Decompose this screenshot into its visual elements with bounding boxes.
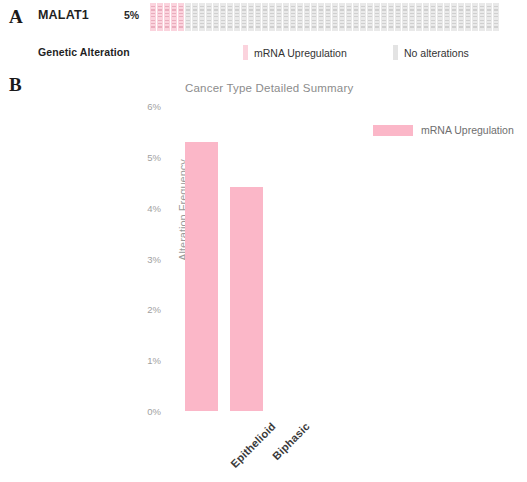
bars-layer <box>170 106 385 411</box>
oncoprint-tile-no-alteration[interactable] <box>395 3 401 31</box>
chart-title: Cancer Type Detailed Summary <box>185 82 353 94</box>
oncoprint-tile-no-alteration[interactable] <box>332 3 338 31</box>
oncoprint-tile-altered[interactable] <box>171 3 177 31</box>
oncoprint-tile-no-alteration[interactable] <box>290 3 296 31</box>
oncoprint-tile-no-alteration[interactable] <box>388 3 394 31</box>
oncoprint-tile-no-alteration[interactable] <box>199 3 205 31</box>
oncoprint-legend: Genetic Alteration mRNA Upregulation No … <box>0 44 527 64</box>
oncoprint-tile-no-alteration[interactable] <box>269 3 275 31</box>
oncoprint-tile-no-alteration[interactable] <box>220 3 226 31</box>
legend-item-label: No alterations <box>404 47 469 59</box>
oncoprint-tile-no-alteration[interactable] <box>416 3 422 31</box>
gene-alteration-percent: 5% <box>124 9 139 21</box>
cancer-type-summary-panel: B Cancer Type Detailed Summary mRNA Upre… <box>0 72 527 482</box>
oncoprint-tile-no-alteration[interactable] <box>367 3 373 31</box>
oncoprint-tile-no-alteration[interactable] <box>283 3 289 31</box>
gene-name-label: MALAT1 <box>38 8 89 22</box>
oncoprint-tile-no-alteration[interactable] <box>458 3 464 31</box>
oncoprint-tile-no-alteration[interactable] <box>465 3 471 31</box>
oncoprint-tile-no-alteration[interactable] <box>346 3 352 31</box>
chart-legend-label: mRNA Upregulation <box>421 124 514 136</box>
oncoprint-tile-no-alteration[interactable] <box>255 3 261 31</box>
oncoprint-sample-strip[interactable] <box>150 3 500 31</box>
y-axis-tick-label: 0% <box>147 406 161 417</box>
oncoprint-tile-no-alteration[interactable] <box>276 3 282 31</box>
oncoprint-tile-no-alteration[interactable] <box>304 3 310 31</box>
oncoprint-tile-no-alteration[interactable] <box>311 3 317 31</box>
oncoprint-tile-no-alteration[interactable] <box>192 3 198 31</box>
oncoprint-tile-altered[interactable] <box>150 3 156 31</box>
oncoprint-tile-no-alteration[interactable] <box>185 3 191 31</box>
no-alterations-swatch-icon <box>393 45 398 60</box>
oncoprint-tile-no-alteration[interactable] <box>213 3 219 31</box>
legend-item-mrna-upregulation: mRNA Upregulation <box>243 45 347 60</box>
oncoprint-tile-no-alteration[interactable] <box>493 3 499 31</box>
oncoprint-tile-no-alteration[interactable] <box>339 3 345 31</box>
legend-item-no-alterations: No alterations <box>393 45 469 60</box>
oncoprint-tile-no-alteration[interactable] <box>206 3 212 31</box>
y-axis-tick-label: 6% <box>147 101 161 112</box>
genetic-alteration-label: Genetic Alteration <box>38 46 130 58</box>
oncoprint-tile-altered[interactable] <box>178 3 184 31</box>
oncoprint-tile-no-alteration[interactable] <box>444 3 450 31</box>
oncoprint-panel: A MALAT1 5% Genetic Alteration mRNA Upre… <box>0 0 527 72</box>
x-axis-tick-label: Epithelioid <box>228 420 278 470</box>
panel-a-label: A <box>9 6 23 28</box>
oncoprint-tile-no-alteration[interactable] <box>360 3 366 31</box>
oncoprint-tile-no-alteration[interactable] <box>437 3 443 31</box>
oncoprint-tile-no-alteration[interactable] <box>325 3 331 31</box>
oncoprint-tile-no-alteration[interactable] <box>486 3 492 31</box>
chart-legend: mRNA Upregulation <box>373 124 514 136</box>
y-axis-tick-label: 4% <box>147 202 161 213</box>
oncoprint-tile-no-alteration[interactable] <box>423 3 429 31</box>
oncoprint-tile-no-alteration[interactable] <box>318 3 324 31</box>
oncoprint-tile-no-alteration[interactable] <box>297 3 303 31</box>
oncoprint-tile-no-alteration[interactable] <box>374 3 380 31</box>
oncoprint-tile-no-alteration[interactable] <box>479 3 485 31</box>
bar[interactable] <box>230 187 263 411</box>
oncoprint-tile-no-alteration[interactable] <box>451 3 457 31</box>
oncoprint-tile-no-alteration[interactable] <box>402 3 408 31</box>
oncoprint-tile-no-alteration[interactable] <box>381 3 387 31</box>
oncoprint-tile-no-alteration[interactable] <box>241 3 247 31</box>
oncoprint-tile-no-alteration[interactable] <box>227 3 233 31</box>
mrna-upregulation-swatch-icon <box>243 45 248 60</box>
oncoprint-tile-no-alteration[interactable] <box>472 3 478 31</box>
oncoprint-tile-altered[interactable] <box>164 3 170 31</box>
bar-chart-plot-area: Alteration Frequency 0%1%2%3%4%5%6% Epit… <box>170 106 385 411</box>
legend-item-label: mRNA Upregulation <box>254 47 347 59</box>
y-axis-tick-label: 3% <box>147 253 161 264</box>
bar[interactable] <box>185 142 218 411</box>
oncoprint-tile-no-alteration[interactable] <box>353 3 359 31</box>
oncoprint-tile-no-alteration[interactable] <box>409 3 415 31</box>
y-axis-tick-label: 5% <box>147 151 161 162</box>
oncoprint-tile-no-alteration[interactable] <box>248 3 254 31</box>
oncoprint-tile-no-alteration[interactable] <box>234 3 240 31</box>
y-axis-tick-label: 1% <box>147 355 161 366</box>
oncoprint-tile-no-alteration[interactable] <box>430 3 436 31</box>
y-axis-tick-label: 2% <box>147 304 161 315</box>
oncoprint-tile-altered[interactable] <box>157 3 163 31</box>
oncoprint-tile-no-alteration[interactable] <box>262 3 268 31</box>
panel-b-label: B <box>9 74 22 96</box>
